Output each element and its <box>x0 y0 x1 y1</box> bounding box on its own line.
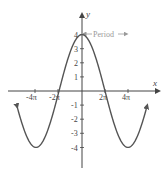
y-tick-neg3: -3 <box>71 129 78 138</box>
y-tick-1: 1 <box>74 73 78 82</box>
y-tick-neg4: -4 <box>71 144 78 153</box>
y-tick-2: 2 <box>74 59 78 68</box>
x-axis-label: x <box>152 78 157 88</box>
y-tick-neg1: -1 <box>71 101 78 110</box>
chart-canvas: x y -4π -2π 2π 4π 4 3 2 1 -1 -2 -3 -4 Pe… <box>0 0 165 176</box>
x-tick-neg4pi: -4π <box>26 93 37 102</box>
y-axis-label: y <box>85 9 90 19</box>
y-tick-3: 3 <box>74 45 78 54</box>
period-label: Period <box>93 30 114 39</box>
y-tick-neg2: -2 <box>71 115 78 124</box>
x-tick-4pi: 4π <box>122 93 130 102</box>
